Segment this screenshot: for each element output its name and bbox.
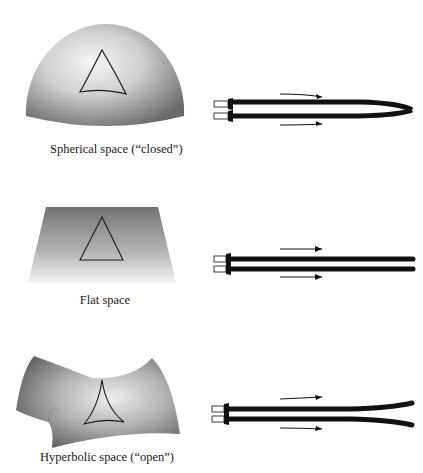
sphere-dome-surface [20,18,190,138]
panel-flat: Flat space [0,190,423,330]
arrow-icon [280,246,322,280]
light-beams-parallel [210,235,423,285]
flashlight-icon [214,253,231,275]
flashlight-icon [214,98,233,122]
caption-hyperbolic: Hyperbolic space (“open”) [40,450,170,465]
caption-spherical: Spherical space (“closed”) [50,142,170,157]
panel-spherical: Spherical space (“closed”) [0,0,423,170]
flashlight-icon [212,403,229,425]
saddle-surface [12,350,187,450]
flat-plane-surface [28,205,178,285]
arrow-icon [280,94,322,126]
caption-flat: Flat space [70,293,140,308]
arrow-icon [280,395,322,431]
light-beams-diverging [210,385,423,435]
light-beams-converging [210,85,423,135]
panel-hyperbolic: Hyperbolic space (“open”) [0,340,423,473]
